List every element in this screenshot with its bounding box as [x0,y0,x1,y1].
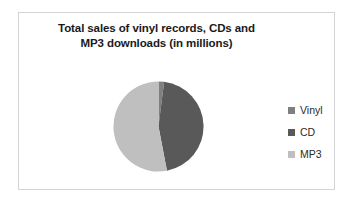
legend-swatch-mp3 [288,151,295,158]
pie-chart [113,81,204,172]
pie-slice-cd[interactable] [159,82,204,171]
legend-item-mp3[interactable]: MP3 [288,143,348,165]
legend-label-vinyl: Vinyl [300,105,323,116]
legend-item-vinyl[interactable]: Vinyl [288,99,348,121]
legend-item-cd[interactable]: CD [288,121,348,143]
legend-swatch-vinyl [288,107,295,114]
chart-title-line-2: MP3 downloads (in millions) [29,36,284,51]
legend-swatch-cd [288,129,295,136]
legend-label-mp3: MP3 [300,149,322,160]
pie-slice-group [113,81,203,171]
chart-frame: Total sales of vinyl records, CDs and MP… [18,12,335,190]
chart-legend: Vinyl CD MP3 [288,99,348,165]
legend-label-cd: CD [300,127,315,138]
pie-chart-svg [113,81,204,172]
chart-title: Total sales of vinyl records, CDs and MP… [29,21,284,51]
chart-title-line-1: Total sales of vinyl records, CDs and [29,21,284,36]
